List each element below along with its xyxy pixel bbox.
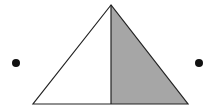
right-point-dot — [195, 59, 203, 67]
left-point-dot — [12, 59, 20, 67]
triangle-diagram — [0, 0, 211, 111]
